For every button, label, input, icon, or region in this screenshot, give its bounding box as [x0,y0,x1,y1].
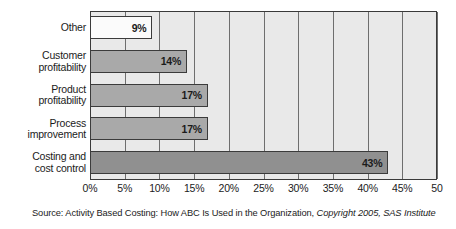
bar-value-label: 43% [362,157,387,169]
bar-chart-figure: 9%14%17%17%43% OtherCustomerprofitabilit… [0,0,456,229]
value-axis-tick-labels: 0%5%10%15%20%25%30%35%40%45%50 [90,182,437,196]
category-label-line: improvement [28,129,87,141]
bar-value-label: 17% [182,123,207,135]
source-caption-second-line [32,221,452,229]
category-label-line: cost control [35,163,86,175]
category-label-line: Customer [42,50,86,62]
category-label-product-profitability: Productprofitability [0,79,86,113]
bar-value-label: 14% [161,55,186,67]
bar-row: 17% [90,112,437,146]
xtick-label-5: 5% [117,182,132,194]
bar-costing-and-cost-control[interactable]: 43% [90,151,388,174]
bar-process-improvement[interactable]: 17% [90,117,208,140]
xtick-label-50: 50 [431,182,442,194]
xtick-label-40: 40% [357,182,377,194]
xtick-label-15: 15% [184,182,204,194]
bar-customer-profitability[interactable]: 14% [90,50,187,73]
bar-row: 9% [90,11,437,45]
source-caption-italic: Copyright 2005, SAS Institute [317,208,436,218]
gridline-50 [437,12,438,179]
category-label-line: profitability [38,95,86,107]
bar-row: 17% [90,79,437,113]
source-caption-plain: Source: Activity Based Costing: How ABC … [32,208,317,218]
category-label-costing-and-cost-control: Costing andcost control [0,146,86,180]
bar-row: 14% [90,45,437,79]
category-axis-labels: OtherCustomerprofitabilityProductprofita… [0,11,86,180]
xtick-label-0: 0% [83,182,98,194]
category-label-other: Other [0,11,86,45]
xtick-label-45: 45% [392,182,412,194]
category-label-process-improvement: Processimprovement [0,112,86,146]
source-caption: Source: Activity Based Costing: How ABC … [32,208,452,219]
bar-value-label: 9% [132,22,152,34]
xtick-label-30: 30% [288,182,308,194]
bars-layer: 9%14%17%17%43% [90,11,437,180]
bar-product-profitability[interactable]: 17% [90,84,208,107]
xtick-label-10: 10% [149,182,169,194]
category-label-line: profitability [38,62,86,74]
bar-value-label: 17% [182,89,207,101]
xtick-label-25: 25% [253,182,273,194]
bar-row: 43% [90,146,437,180]
bar-other[interactable]: 9% [90,16,152,39]
category-label-line: Other [61,22,86,34]
xtick-label-35: 35% [323,182,343,194]
category-label-customer-profitability: Customerprofitability [0,45,86,79]
xtick-label-20: 20% [219,182,239,194]
